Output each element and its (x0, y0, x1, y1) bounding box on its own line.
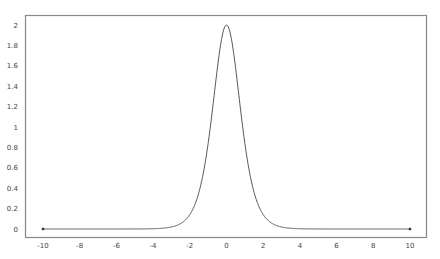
line-chart: 00.20.40.60.811.21.41.61.82 -10-8-6-4-20… (0, 0, 440, 259)
x-tick-label: -10 (37, 242, 48, 250)
y-tick-label: 1.6 (7, 62, 19, 70)
y-tick-label: 0 (14, 226, 18, 234)
x-axis-ticks: -10-8-6-4-20246810 (37, 242, 414, 250)
y-tick-label: 1.4 (7, 83, 19, 91)
x-tick-label: 8 (371, 242, 375, 250)
x-tick-label: 0 (224, 242, 228, 250)
x-tick-label: 2 (261, 242, 265, 250)
y-tick-label: 1.2 (7, 103, 18, 111)
plot-frame (26, 16, 427, 238)
y-tick-label: 2 (14, 22, 18, 30)
y-axis-ticks: 00.20.40.60.811.21.41.61.82 (7, 22, 19, 234)
endpoint-marker (409, 228, 411, 230)
x-tick-label: -4 (150, 242, 158, 250)
x-tick-label: 10 (406, 242, 415, 250)
x-tick-label: 6 (334, 242, 339, 250)
y-tick-label: 0.8 (7, 144, 18, 152)
y-tick-label: 1.8 (7, 42, 18, 50)
x-tick-label: -8 (76, 242, 83, 250)
x-tick-label: 4 (298, 242, 303, 250)
x-tick-label: -6 (113, 242, 121, 250)
y-tick-label: 0.4 (7, 185, 19, 193)
y-tick-label: 0.6 (7, 164, 19, 172)
y-tick-label: 0.2 (7, 205, 18, 213)
endpoint-marker (42, 228, 44, 230)
y-tick-label: 1 (14, 124, 18, 132)
x-tick-label: -2 (186, 242, 193, 250)
